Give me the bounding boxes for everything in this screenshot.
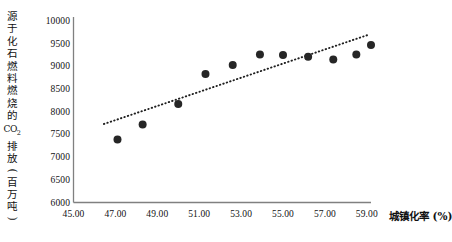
x-axis-tick-label: 47.00	[104, 209, 126, 219]
x-axis-tick-label: 59.00	[356, 209, 378, 219]
x-axis-title: 城镇化率 (%)	[389, 208, 452, 223]
x-axis-tick-label: 51.00	[188, 209, 210, 219]
x-axis-tick-label: 49.00	[146, 209, 168, 219]
x-axis-tick-label: 57.00	[314, 209, 336, 219]
x-axis-tick-label: 53.00	[230, 209, 252, 219]
x-axis-tick-label: 55.00	[272, 209, 294, 219]
x-axis-tick-label: 45.00	[63, 209, 85, 219]
